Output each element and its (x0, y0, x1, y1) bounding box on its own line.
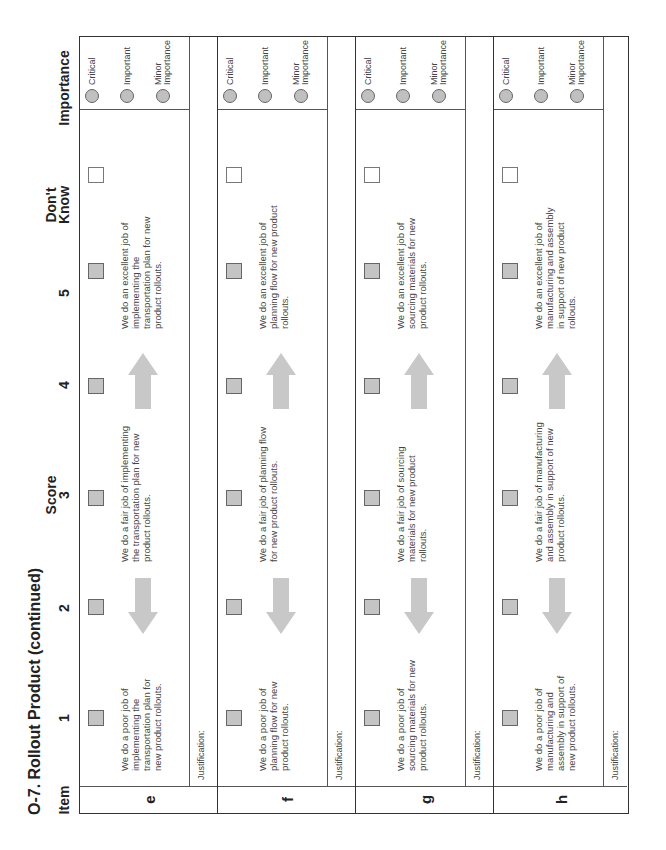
importance-label-line: Important (399, 47, 408, 85)
importance-label: Important (537, 47, 546, 85)
header-score-3: 3 (58, 476, 71, 515)
importance-important[interactable]: Important (120, 47, 134, 103)
radio-circle-icon[interactable] (499, 89, 513, 103)
importance-critical[interactable]: Critical (499, 57, 513, 103)
item-cell: f (218, 786, 355, 813)
score-4-checkbox[interactable] (88, 378, 104, 394)
score-1-checkbox[interactable] (88, 710, 104, 726)
importance-label-line: Importance (439, 40, 448, 85)
radio-circle-icon[interactable] (294, 89, 308, 103)
importance-label: Critical (88, 57, 97, 85)
item-cell: h (494, 786, 627, 813)
poor-description: We do a poor job of planning flow for ne… (257, 659, 290, 771)
importance-label-line: Critical (502, 57, 511, 85)
importance-minor[interactable]: MinorImportance (568, 40, 586, 103)
importance-minor[interactable]: MinorImportance (430, 40, 448, 103)
poor-description: We do a poor job of implementing the tra… (119, 659, 163, 771)
score-2-checkbox[interactable] (226, 599, 242, 615)
radio-circle-icon[interactable] (223, 89, 237, 103)
importance-important[interactable]: Important (258, 47, 272, 103)
score-4-checkbox[interactable] (364, 378, 380, 394)
header-score-2: 2 (58, 604, 71, 612)
score-5-checkbox[interactable] (88, 263, 104, 279)
importance-label-line: Important (261, 47, 270, 85)
radio-circle-icon[interactable] (396, 89, 410, 103)
justification-field[interactable]: Justification: (604, 37, 627, 786)
importance-label: Critical (226, 57, 235, 85)
arrow-right-icon (128, 353, 158, 409)
importance-critical[interactable]: Critical (361, 57, 375, 103)
radio-circle-icon[interactable] (120, 89, 134, 103)
radio-circle-icon[interactable] (534, 89, 548, 103)
arrow-left-icon (266, 578, 296, 634)
table-row-f: f We do a poor job of planning flow for … (218, 37, 356, 813)
importance-label-line: Importance (577, 40, 586, 85)
header-score-group: Score 3 (45, 476, 71, 515)
header-dont-know-line2: Know (58, 186, 71, 224)
header-dont-know: Don't Know (45, 186, 71, 224)
justification-field[interactable]: Justification: (466, 37, 493, 786)
header-score-1: 1 (58, 714, 71, 722)
importance-label: Important (261, 47, 270, 85)
header-score-4: 4 (58, 381, 71, 389)
radio-circle-icon[interactable] (432, 89, 446, 103)
score-2-checkbox[interactable] (502, 599, 518, 615)
score-4-checkbox[interactable] (502, 378, 518, 394)
importance-label: Important (399, 47, 408, 85)
dont-know-checkbox[interactable] (364, 167, 380, 183)
importance-divider (80, 109, 189, 110)
importance-minor[interactable]: MinorImportance (292, 40, 310, 103)
radio-circle-icon[interactable] (361, 89, 375, 103)
importance-label: MinorImportance (430, 40, 448, 85)
radio-circle-icon[interactable] (570, 89, 584, 103)
justification-field[interactable]: Justification: (328, 37, 355, 786)
justification-label: Justification: (196, 730, 206, 780)
score-1-checkbox[interactable] (364, 710, 380, 726)
importance-label: Critical (364, 57, 373, 85)
score-1-checkbox[interactable] (502, 710, 518, 726)
score-cell: We do a poor job of implementing the tra… (80, 37, 190, 786)
justification-field[interactable]: Justification: (190, 37, 217, 786)
justification-label: Justification: (472, 730, 482, 780)
score-2-checkbox[interactable] (88, 599, 104, 615)
importance-minor[interactable]: MinorImportance (154, 40, 172, 103)
table-row-g: g We do a poor job of sourcing materials… (356, 37, 494, 813)
item-letter: f (278, 786, 295, 813)
importance-important[interactable]: Important (534, 47, 548, 103)
score-3-checkbox[interactable] (502, 490, 518, 506)
radio-circle-icon[interactable] (85, 89, 99, 103)
radio-circle-icon[interactable] (258, 89, 272, 103)
importance-label-line: Important (537, 47, 546, 85)
importance-divider (356, 109, 465, 110)
importance-important[interactable]: Important (396, 47, 410, 103)
importance-label-line: Critical (226, 57, 235, 85)
score-4-checkbox[interactable] (226, 378, 242, 394)
importance-critical[interactable]: Critical (223, 57, 237, 103)
score-1-checkbox[interactable] (226, 710, 242, 726)
arrow-right-icon (404, 353, 434, 409)
score-5-checkbox[interactable] (226, 263, 242, 279)
score-3-checkbox[interactable] (364, 490, 380, 506)
importance-divider (494, 109, 603, 110)
poor-description: We do a poor job of manufacturing and as… (533, 659, 577, 771)
radio-circle-icon[interactable] (156, 89, 170, 103)
score-cell: We do a poor job of manufacturing and as… (494, 37, 604, 786)
score-2-checkbox[interactable] (364, 599, 380, 615)
importance-divider (218, 109, 327, 110)
dont-know-checkbox[interactable] (226, 167, 242, 183)
score-3-checkbox[interactable] (226, 490, 242, 506)
excellent-description: We do an excellent job of planning flow … (257, 204, 290, 329)
arrow-left-icon (128, 578, 158, 634)
score-5-checkbox[interactable] (502, 263, 518, 279)
importance-critical[interactable]: Critical (85, 57, 99, 103)
item-letter: g (416, 786, 433, 813)
score-3-checkbox[interactable] (88, 490, 104, 506)
excellent-description: We do an excellent job of implementing t… (119, 204, 163, 329)
fair-description: We do a fair job of sourcing materials f… (395, 422, 428, 562)
arrow-right-icon (266, 353, 296, 409)
importance-label: MinorImportance (292, 40, 310, 85)
dont-know-checkbox[interactable] (502, 167, 518, 183)
dont-know-checkbox[interactable] (88, 167, 104, 183)
score-5-checkbox[interactable] (364, 263, 380, 279)
item-letter: e (140, 786, 157, 813)
